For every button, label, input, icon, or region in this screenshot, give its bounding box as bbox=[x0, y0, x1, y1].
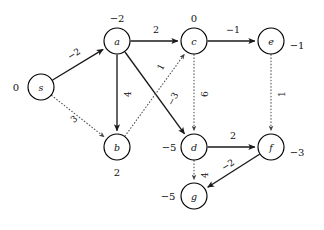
node-value-b: 2 bbox=[114, 167, 120, 178]
graph-figure: −2324−3−11612−24 sabcdefg 0−220−5−1−3−5 bbox=[0, 0, 324, 230]
node-value-f: −3 bbox=[290, 147, 305, 158]
node-label-b: b bbox=[114, 142, 120, 153]
edge-weight-b-c: 1 bbox=[155, 62, 167, 72]
edge-weight-a-b: 4 bbox=[123, 91, 133, 97]
node-label-d: d bbox=[191, 142, 197, 153]
node-label-c: c bbox=[191, 36, 197, 47]
edge-weight-a-d: −3 bbox=[165, 91, 180, 108]
edge-weight-c-e: −1 bbox=[226, 24, 240, 35]
edge-weight-s-a: −2 bbox=[66, 46, 83, 62]
edges-layer bbox=[52, 41, 271, 187]
graph-edge-s-b bbox=[52, 95, 105, 137]
node-value-s: 0 bbox=[13, 82, 19, 93]
node-label-e: e bbox=[268, 36, 274, 47]
node-label-a: a bbox=[114, 36, 120, 47]
node-label-g: g bbox=[191, 191, 197, 202]
edge-weight-c-d: 6 bbox=[200, 91, 210, 97]
graph-canvas: −2324−3−11612−24 sabcdefg 0−220−5−1−3−5 bbox=[0, 0, 324, 230]
edge-labels-layer: −2324−3−11612−24 bbox=[66, 24, 287, 178]
edge-weight-d-f: 2 bbox=[230, 130, 236, 141]
edge-weight-e-f: 1 bbox=[277, 91, 287, 97]
node-value-g: −5 bbox=[161, 191, 176, 202]
node-value-e: −1 bbox=[290, 40, 305, 51]
node-value-d: −5 bbox=[162, 142, 177, 153]
edge-weight-d-g: 4 bbox=[200, 172, 210, 178]
node-value-c: 0 bbox=[191, 13, 197, 24]
edge-weight-s-b: 3 bbox=[69, 113, 80, 125]
node-value-a: −2 bbox=[110, 13, 125, 24]
edge-weight-a-c: 2 bbox=[153, 24, 159, 35]
node-label-s: s bbox=[39, 82, 44, 93]
graph-edge-f-g bbox=[208, 154, 260, 187]
